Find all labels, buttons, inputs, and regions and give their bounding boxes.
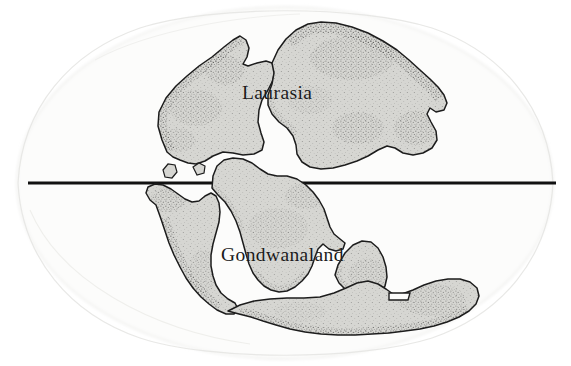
pangaea-figure: Laurasia Gondwanaland bbox=[0, 0, 571, 366]
laurasia-label: Laurasia bbox=[242, 83, 312, 103]
gondwanaland-label: Gondwanaland bbox=[221, 245, 344, 265]
pangaea-map-svg bbox=[0, 0, 571, 366]
inlet-notch bbox=[389, 293, 410, 300]
